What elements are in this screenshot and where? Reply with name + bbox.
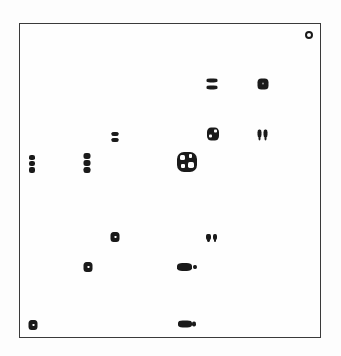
- data-point-column: [29, 155, 35, 173]
- data-point-wide: [177, 263, 197, 271]
- data-point-pair-v: [258, 130, 269, 141]
- data-point-square: [111, 232, 120, 242]
- data-point-big-grid: [177, 152, 197, 172]
- data-point-column: [84, 153, 91, 173]
- data-point-grid: [207, 128, 219, 141]
- data-point-pair-h: [112, 132, 119, 142]
- data-point-ring: [305, 31, 313, 39]
- data-point-pair-h: [207, 79, 218, 90]
- plot-frame: [19, 23, 321, 338]
- data-point-wide: [178, 321, 196, 328]
- data-point-square: [84, 262, 93, 272]
- data-point-square: [29, 320, 38, 330]
- data-point-pair-v: [206, 234, 218, 242]
- data-point-square: [258, 79, 269, 90]
